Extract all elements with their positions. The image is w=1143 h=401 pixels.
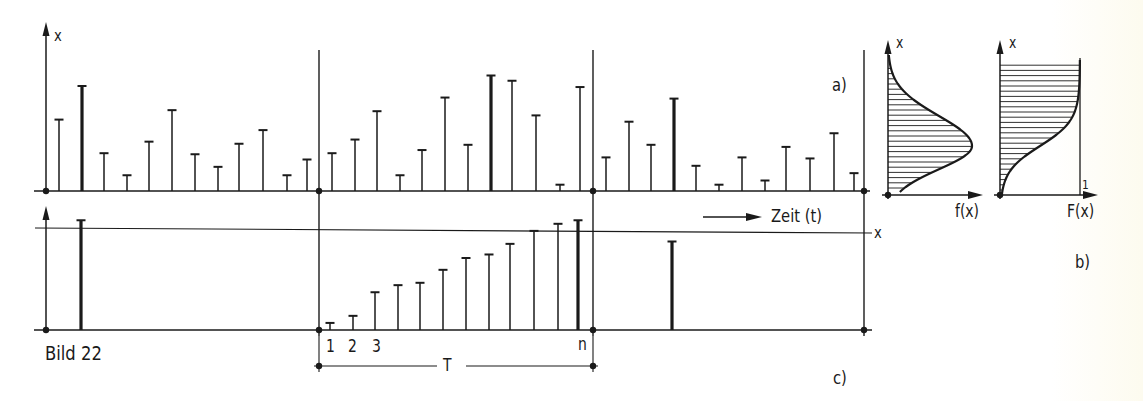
period-node	[43, 327, 49, 333]
cdf-x-arrow-icon	[1083, 191, 1098, 199]
cdf-axis-label: F(x)	[1067, 203, 1094, 220]
period-node	[861, 327, 867, 333]
period-node	[43, 188, 49, 194]
period-node	[590, 327, 596, 333]
cdf-y-label: x	[1009, 36, 1016, 51]
period-node	[590, 188, 596, 194]
dimension-node	[316, 363, 322, 369]
period-node	[316, 188, 322, 194]
cdf-y-arrow-icon	[997, 40, 1004, 54]
panel-b-label: b)	[1075, 253, 1090, 271]
cdf-max-label: 1	[1082, 178, 1089, 191]
sample-label-1: 1	[326, 338, 335, 355]
dimension-node	[590, 363, 596, 369]
period-node	[861, 188, 867, 194]
panel-a-y-axis-label: x	[54, 28, 62, 44]
panel-c-label: c)	[833, 369, 847, 387]
sample-label-n: n	[578, 336, 587, 353]
figure-caption: Bild 22	[45, 343, 102, 363]
panel-a-label: a)	[832, 76, 847, 94]
threshold-line	[35, 228, 872, 233]
time-arrow-icon	[746, 213, 762, 221]
threshold-x-label: x	[874, 225, 882, 241]
pdf-origin	[885, 192, 891, 198]
sample-label-3: 3	[372, 338, 381, 355]
pdf-y-label: x	[896, 36, 903, 51]
figure-bild-22: x a) Zeit (t) x Bild 22 1 2 3 n T c) x f…	[0, 0, 1143, 401]
time-axis-label: Zeit (t)	[771, 207, 822, 225]
pdf-axis-label: f(x)	[955, 203, 979, 220]
pdf-x-arrow-icon	[968, 191, 983, 199]
panel-c-y-arrow-icon	[43, 206, 50, 220]
panel-a-y-arrow-icon	[43, 22, 50, 36]
cdf-curve	[1002, 60, 1080, 194]
period-label: T	[443, 357, 452, 374]
pdf-y-arrow-icon	[885, 40, 892, 54]
period-node	[316, 327, 322, 333]
pdf-curve	[889, 55, 972, 192]
sample-label-2: 2	[348, 338, 357, 355]
